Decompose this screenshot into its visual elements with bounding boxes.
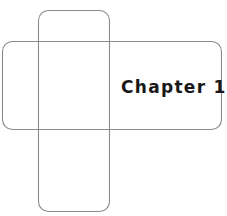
vertical-rounded-rectangle (39, 11, 110, 212)
chapter-label: Chapter 15 (121, 77, 227, 97)
figure-canvas: Chapter 15 (0, 0, 227, 216)
crossed-rectangles-diagram (0, 0, 227, 216)
